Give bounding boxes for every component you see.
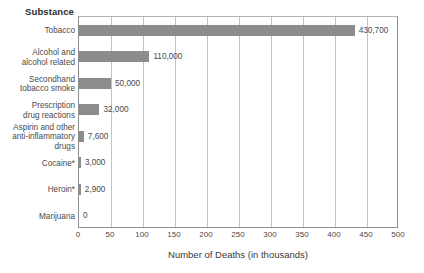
- x-axis-title: Number of Deaths (in thousands): [78, 249, 398, 260]
- x-axis-tick-label: 100: [135, 230, 148, 239]
- bar-value-label: 430,700: [355, 25, 389, 36]
- x-axis-tick-label: 250: [231, 230, 244, 239]
- bar-value-label: 0: [79, 210, 88, 221]
- category-label: Tobacco: [0, 26, 75, 36]
- y-axis-header: Substance: [0, 6, 74, 17]
- x-axis-tick-label: 300: [263, 230, 276, 239]
- bar-row: Marijuana0: [79, 203, 397, 230]
- category-label: Marijuana: [0, 212, 75, 222]
- x-axis-tick-group: 050100150200250300350400450500: [78, 230, 398, 244]
- bar: [79, 78, 111, 89]
- bar-row: Tobacco430,700: [79, 17, 397, 44]
- category-label: Aspirin and other anti-inflammatory drug…: [0, 123, 75, 152]
- bar-value-label: 32,000: [99, 104, 128, 115]
- bar-row: Prescription drug reactions32,000: [79, 97, 397, 124]
- bar: [79, 25, 355, 36]
- x-axis-tick-label: 50: [106, 230, 115, 239]
- category-label: Alcohol and alcohol related: [0, 48, 75, 67]
- x-axis-tick-label: 0: [76, 230, 80, 239]
- bar-value-label: 7,600: [84, 131, 109, 142]
- bar-value-label: 2,900: [81, 184, 106, 195]
- x-axis-tick-label: 150: [167, 230, 180, 239]
- x-axis-tick-label: 500: [391, 230, 404, 239]
- bar-row: Heroin*2,900: [79, 176, 397, 203]
- bar: [79, 104, 99, 115]
- x-axis-tick-label: 350: [295, 230, 308, 239]
- plot-area: Tobacco430,700Alcohol and alcohol relate…: [78, 16, 398, 228]
- bar-value-label: 50,000: [111, 78, 140, 89]
- bar-chart: Substance Tobacco430,700Alcohol and alco…: [0, 0, 424, 273]
- x-axis-tick-label: 200: [199, 230, 212, 239]
- bar-row: Cocaine*3,000: [79, 150, 397, 177]
- x-axis-tick-label: 400: [327, 230, 340, 239]
- bar-row: Alcohol and alcohol related110,000: [79, 44, 397, 71]
- bar-row: Secondhand tobacco smoke50,000: [79, 70, 397, 97]
- x-axis-tick-label: 450: [359, 230, 372, 239]
- bar-row: Aspirin and other anti-inflammatory drug…: [79, 123, 397, 150]
- category-label: Cocaine*: [0, 159, 75, 169]
- category-label: Heroin*: [0, 185, 75, 195]
- bar: [79, 51, 149, 62]
- category-label: Prescription drug reactions: [0, 101, 75, 120]
- category-label: Secondhand tobacco smoke: [0, 75, 75, 94]
- bar-value-label: 110,000: [149, 51, 182, 62]
- bar-value-label: 3,000: [81, 157, 106, 168]
